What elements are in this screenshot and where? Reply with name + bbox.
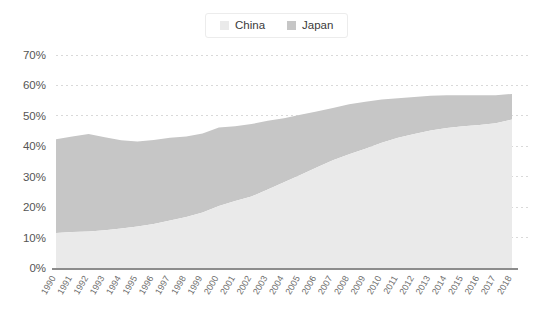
x-tick-label: 1995	[120, 274, 139, 296]
x-tick-labels: 1990199119921993199419951996199719981999…	[39, 274, 514, 296]
x-tick-label: 2011	[381, 274, 399, 296]
y-tick-label: 70%	[23, 49, 46, 61]
x-tick-label: 2015	[446, 274, 465, 296]
x-tick-label: 2004	[267, 274, 286, 296]
plot-svg: 0%10%20%30%40%50%60%70% 1990199119921993…	[0, 0, 533, 309]
x-tick-label: 2007	[316, 274, 335, 296]
x-tick-label: 2013	[414, 274, 433, 296]
x-tick-label: 2010	[365, 274, 384, 296]
x-tick-label: 1998	[169, 274, 188, 296]
y-tick-label: 60%	[23, 79, 46, 91]
y-tick-labels: 0%10%20%30%40%50%60%70%	[23, 49, 46, 274]
x-tick-label: 2012	[397, 274, 416, 296]
y-tick-label: 40%	[23, 140, 46, 152]
y-tick-label: 0%	[29, 262, 46, 274]
x-tick-label: 2008	[332, 274, 351, 296]
x-tick-label: 1993	[88, 274, 107, 296]
x-tick-label: 2003	[251, 274, 270, 296]
x-tick-label: 1999	[186, 274, 205, 296]
y-tick-label: 20%	[23, 201, 46, 213]
x-tick-label: 2000	[202, 274, 221, 296]
x-tick-label: 1990	[39, 274, 58, 296]
plot-area: 0%10%20%30%40%50%60%70% 1990199119921993…	[0, 0, 533, 309]
x-tick-label: 2001	[218, 274, 237, 296]
x-tick-label: 2016	[462, 274, 481, 296]
x-tick-label: 2006	[300, 274, 319, 296]
x-tick-label: 2009	[348, 274, 367, 296]
x-tick-label: 2018	[495, 274, 514, 296]
y-tick-label: 10%	[23, 232, 46, 244]
x-tick-label: 2017	[479, 274, 498, 296]
x-tick-label: 1997	[153, 274, 172, 296]
area-series-group	[56, 94, 512, 268]
y-tick-label: 30%	[23, 171, 46, 183]
x-tick-label: 1996	[137, 274, 156, 296]
x-tick-label: 2014	[430, 274, 449, 296]
stacked-area-chart: China Japan 0%10%20%30%40%50%60%70% 1990…	[0, 0, 533, 309]
x-tick-label: 2002	[234, 274, 253, 296]
x-tick-label: 1992	[72, 274, 91, 296]
x-tick-label: 2005	[283, 274, 302, 296]
x-tick-label: 1991	[55, 274, 74, 296]
x-tick-label: 1994	[104, 274, 123, 296]
y-tick-label: 50%	[23, 110, 46, 122]
